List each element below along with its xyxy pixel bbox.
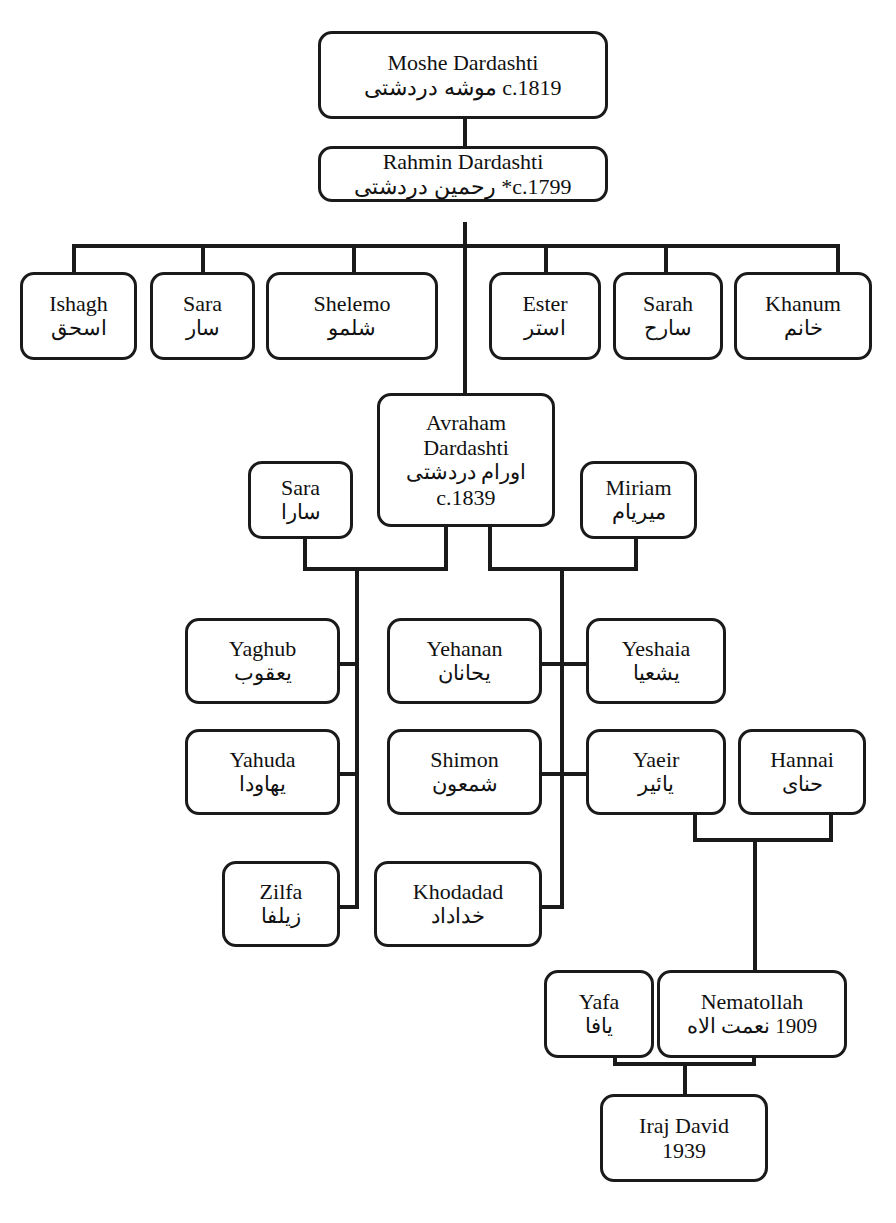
edge-to-khodadad — [539, 905, 564, 909]
node-moshe-persian-date: c.1819 موشه دردشتی — [364, 75, 561, 100]
edge-descent-avraham-miriam — [560, 567, 564, 909]
node-avraham-dardashti[interactable]: Avraham Dardashti اورام دردشتی c.1839 — [377, 393, 555, 527]
node-shimon-persian: شمعون — [432, 773, 498, 797]
node-iraj-latin: Iraj David — [639, 1113, 729, 1138]
edge-drop-sarah — [664, 244, 668, 274]
node-ishagh[interactable]: Ishagh اسحق — [20, 272, 137, 360]
node-yahuda-persian: یهاودا — [239, 773, 286, 797]
node-rahmin-persian-date: c.1799* رحمین دردشتی — [354, 174, 571, 199]
node-yahuda[interactable]: Yahuda یهاودا — [185, 729, 340, 815]
node-ester-latin: Ester — [522, 291, 567, 316]
node-zilfa[interactable]: Zilfa زیلفا — [222, 861, 340, 947]
edge-marriage-sara-avraham — [303, 567, 448, 571]
node-shelemo[interactable]: Shelemo شلمو — [266, 272, 438, 360]
node-sara-1-persian: سار — [186, 317, 220, 341]
node-ishagh-persian: اسحق — [51, 317, 107, 341]
node-nematollah-persian-date: 1909 نعمت الاه — [687, 1015, 818, 1039]
node-shimon[interactable]: Shimon شمعون — [387, 729, 542, 815]
edge-sara2-stem — [303, 539, 307, 567]
node-yaeir-latin: Yaeir — [633, 747, 680, 772]
node-khodadad[interactable]: Khodadad خداداد — [374, 861, 542, 947]
node-moshe-latin: Moshe Dardashti — [388, 50, 539, 75]
edge-descent-iraj — [683, 1062, 687, 1096]
node-moshe-dardashti[interactable]: Moshe Dardashti c.1819 موشه دردشتی — [318, 31, 608, 119]
node-sarah-persian: سارح — [644, 317, 692, 341]
node-zilfa-persian: زیلفا — [261, 905, 301, 929]
edge-moshe-to-rahmin — [463, 117, 467, 148]
node-yaeir-persian: یائیر — [638, 773, 674, 797]
node-hannai-spouse[interactable]: Hannai حنای — [738, 729, 866, 815]
node-ester[interactable]: Ester استر — [489, 272, 601, 360]
node-miriam-latin: Miriam — [606, 475, 672, 500]
node-avraham-persian: اورام دردشتی — [406, 461, 526, 485]
node-sara-2-latin: Sara — [281, 475, 320, 500]
node-yehanan-persian: یحانان — [438, 662, 491, 686]
node-miriam-persian: میریام — [612, 501, 666, 525]
edge-to-yaeir — [560, 772, 588, 776]
node-yeshaia-persian: یشعیا — [633, 662, 680, 686]
node-shimon-latin: Shimon — [430, 747, 498, 772]
node-khodadad-persian: خداداد — [431, 905, 485, 929]
node-yeshaia[interactable]: Yeshaia یشعیا — [586, 618, 726, 704]
edge-descent-sara-avraham — [355, 567, 359, 909]
node-khanum[interactable]: Khanum خانم — [734, 272, 872, 360]
node-iraj-date: 1939 — [662, 1138, 706, 1163]
node-sara-1-latin: Sara — [183, 291, 222, 316]
node-nematollah-latin: Nematollah — [701, 989, 804, 1014]
node-yafa-latin: Yafa — [579, 989, 620, 1014]
node-yafa-persian: یافا — [585, 1015, 613, 1039]
node-khanum-persian: خانم — [784, 317, 823, 341]
node-hannai-latin: Hannai — [770, 747, 834, 772]
node-shelemo-persian: شلمو — [328, 317, 376, 341]
node-sara-2-spouse[interactable]: Sara سارا — [248, 461, 353, 539]
node-shelemo-latin: Shelemo — [314, 291, 391, 316]
node-yeshaia-latin: Yeshaia — [622, 636, 691, 661]
node-hannai-persian: حنای — [782, 773, 823, 797]
node-rahmin-dardashti[interactable]: Rahmin Dardashti c.1799* رحمین دردشتی — [318, 146, 608, 202]
node-yehanan-latin: Yehanan — [427, 636, 503, 661]
node-khanum-latin: Khanum — [765, 291, 841, 316]
edge-miriam-stem — [634, 539, 638, 567]
edge-rahmin-down — [463, 222, 467, 244]
node-iraj-david[interactable]: Iraj David 1939 — [600, 1094, 768, 1182]
node-sarah[interactable]: Sarah سارح — [613, 272, 723, 360]
edge-to-zilfa — [338, 905, 359, 909]
node-yaghub-latin: Yaghub — [229, 636, 296, 661]
node-avraham-latin-1: Avraham — [426, 410, 506, 435]
edge-avraham-right-stem — [488, 527, 492, 567]
edge-to-yaghub — [338, 662, 359, 666]
node-miriam-spouse[interactable]: Miriam میریام — [580, 461, 697, 539]
node-ishagh-latin: Ishagh — [49, 291, 108, 316]
edge-drop-sara1 — [201, 244, 205, 274]
node-zilfa-latin: Zilfa — [260, 879, 303, 904]
edge-sibling-bar-gen3 — [72, 244, 840, 248]
node-nematollah[interactable]: Nematollah 1909 نعمت الاه — [657, 970, 847, 1058]
family-tree-diagram: Moshe Dardashti c.1819 موشه دردشتی Rahmi… — [0, 0, 896, 1223]
node-avraham-date: c.1839 — [436, 485, 495, 510]
node-ester-persian: استر — [524, 317, 566, 341]
node-sara-2-persian: سارا — [281, 501, 321, 525]
node-yaghub[interactable]: Yaghub یعقوب — [185, 618, 340, 704]
edge-drop-khanum — [836, 244, 840, 274]
edge-drop-shelemo — [352, 244, 356, 274]
node-rahmin-latin: Rahmin Dardashti — [383, 149, 544, 174]
node-sara-1[interactable]: Sara سار — [150, 272, 255, 360]
edge-marriage-yaeir-hannai — [693, 838, 833, 842]
edge-drop-avraham — [463, 244, 467, 394]
node-yahuda-latin: Yahuda — [229, 747, 295, 772]
node-yehanan[interactable]: Yehanan یحانان — [387, 618, 542, 704]
node-yaghub-persian: یعقوب — [234, 662, 292, 686]
node-yaeir[interactable]: Yaeir یائیر — [586, 729, 726, 815]
edge-descent-yaeir-hannai — [753, 838, 757, 973]
edge-to-yeshaia — [560, 662, 588, 666]
node-yafa-spouse[interactable]: Yafa یافا — [544, 970, 654, 1058]
edge-avraham-left-stem — [444, 527, 448, 567]
edge-drop-ishagh — [72, 244, 76, 274]
edge-to-yahuda — [338, 772, 359, 776]
node-avraham-latin-2: Dardashti — [423, 435, 509, 460]
node-sarah-latin: Sarah — [643, 291, 693, 316]
edge-drop-ester — [544, 244, 548, 274]
node-khodadad-latin: Khodadad — [413, 879, 503, 904]
